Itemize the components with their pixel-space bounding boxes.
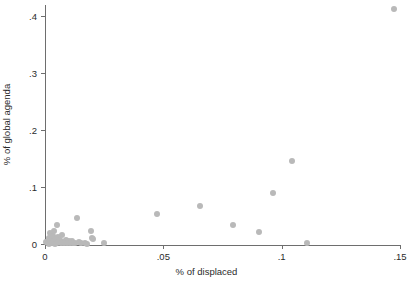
y-tick-label: .3 xyxy=(29,68,37,79)
y-tick-mark xyxy=(41,73,45,74)
scatter-point xyxy=(54,222,60,228)
x-tick-label: .15 xyxy=(393,251,406,262)
y-tick-label: .2 xyxy=(29,125,37,136)
x-axis-line xyxy=(45,245,401,246)
scatter-point xyxy=(101,240,107,246)
scatter-point xyxy=(74,215,80,221)
x-tick-mark xyxy=(400,245,401,249)
scatter-point xyxy=(90,236,96,242)
x-tick-label: .1 xyxy=(278,251,286,262)
scatter-point xyxy=(84,241,90,247)
scatter-point xyxy=(154,211,160,217)
y-axis-title: % of global agenda xyxy=(0,5,14,244)
scatter-point xyxy=(391,6,397,12)
y-tick-mark xyxy=(41,130,45,131)
x-tick-mark xyxy=(282,245,283,249)
y-tick-mark xyxy=(41,16,45,17)
x-tick-label: 0 xyxy=(42,251,47,262)
x-tick-mark xyxy=(163,245,164,249)
x-axis-title: % of displaced xyxy=(0,266,413,277)
y-tick-mark xyxy=(41,187,45,188)
plot-area xyxy=(45,5,400,244)
y-tick-label: .1 xyxy=(29,182,37,193)
scatter-point xyxy=(304,240,310,246)
scatter-point xyxy=(256,229,262,235)
scatter-point xyxy=(270,190,276,196)
y-tick-label: 0 xyxy=(32,239,37,250)
scatter-chart-figure: % of displaced % of global agenda 0.1.2.… xyxy=(0,0,413,285)
y-tick-label: .4 xyxy=(29,11,37,22)
x-tick-label: .05 xyxy=(157,251,170,262)
scatter-point xyxy=(289,158,295,164)
scatter-point xyxy=(88,228,94,234)
scatter-point xyxy=(230,222,236,228)
scatter-point xyxy=(197,203,203,209)
